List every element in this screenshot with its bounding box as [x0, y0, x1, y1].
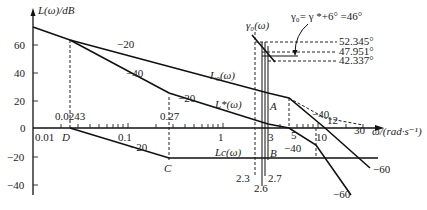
Lstar-label: L*(ω): [214, 98, 242, 111]
gamma-equation: γ₀= γ *+6° =46°: [290, 10, 362, 22]
y-ticks: [33, 45, 38, 185]
point-B: B: [270, 147, 277, 159]
slope-Lc-1: −20: [130, 141, 148, 153]
x-tick-30: 30: [354, 124, 366, 136]
slope-Lstar-1: −40: [126, 67, 144, 79]
x-tick-0.01: 0.01: [35, 131, 54, 143]
y-tick-60: 60: [14, 39, 26, 51]
y-axis-arrow-icon: [31, 8, 36, 16]
mark-12: 12: [327, 114, 338, 126]
slope-Lstar-2: −20: [178, 92, 196, 104]
phase-value-3: 42.337°: [339, 54, 374, 66]
slope-Lstar-3: −40: [284, 142, 302, 154]
slope-L0-3: −60: [373, 163, 391, 175]
x-tick-3: 3: [268, 131, 274, 143]
gamma0-label: γ₀(ω): [246, 19, 270, 32]
bode-diagram: 60 40 20 0 −20 −40 L(ω)/dB 0.01 0.1: [0, 0, 427, 210]
x-mark-0.27: 0.27: [160, 110, 180, 122]
slope-Lstar-4: −60: [333, 188, 351, 200]
y-axis-label: L(ω)/dB: [37, 4, 75, 17]
y-tick-0: 0: [20, 122, 26, 134]
point-A: A: [269, 100, 277, 112]
pointer-arrowhead-icon: [293, 50, 298, 56]
L0-label: L₀(ω): [209, 69, 235, 82]
point-C: C: [164, 162, 172, 174]
x-mark-2.3: 2.3: [236, 172, 250, 184]
point-D: D: [61, 131, 70, 143]
x-tick-10: 10: [316, 131, 328, 143]
Lc-label: Lc(ω): [214, 146, 241, 159]
x-mark-2.6: 2.6: [254, 182, 268, 194]
Lstar-curve: [70, 40, 351, 195]
y-tick-20: 20: [14, 95, 26, 107]
y-tick-40: 40: [14, 67, 26, 79]
x-mark-2.7: 2.7: [268, 172, 282, 184]
y-tick-minus40: −40: [7, 179, 25, 191]
x-tick-1: 1: [218, 131, 224, 143]
pointer-arrow-icon: [295, 24, 308, 53]
x-ticks: [61, 123, 363, 128]
y-tick-minus20: −20: [7, 151, 25, 163]
x-axis-label: ω/(rad·s⁻¹): [372, 125, 422, 138]
slope-L0-1: −20: [117, 38, 135, 50]
